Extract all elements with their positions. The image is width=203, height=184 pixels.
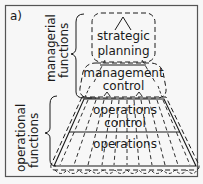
- operations-label: operations: [93, 137, 157, 151]
- managerial-label: managerial functions: [44, 14, 71, 82]
- strategic-line2: planning: [97, 44, 149, 58]
- panel-label: a): [10, 9, 22, 23]
- scalloped-base: [55, 170, 197, 174]
- management-line1: management: [83, 66, 164, 80]
- operations-control-line1: operations: [93, 103, 157, 117]
- svg-text:functions: functions: [27, 113, 41, 168]
- strategic-line1: strategic: [97, 29, 150, 43]
- diagram-svg: a) managerial functions operational func…: [0, 0, 203, 184]
- pyramid-diagram: a) managerial functions operational func…: [0, 0, 203, 184]
- svg-text:operational: operational: [14, 104, 28, 172]
- operational-label: operational functions: [14, 104, 41, 172]
- svg-text:functions: functions: [57, 23, 71, 78]
- management-line2: control: [103, 79, 145, 93]
- svg-text:managerial: managerial: [44, 14, 58, 82]
- operations-control-line2: control: [104, 116, 146, 130]
